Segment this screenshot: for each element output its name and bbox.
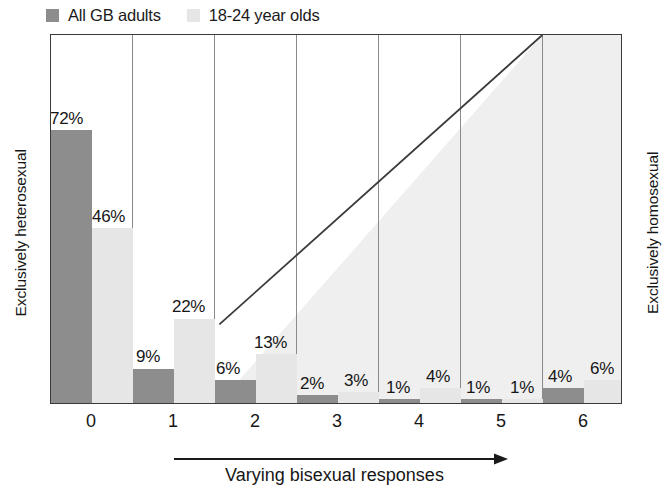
- bar-label-young-3: 3%: [344, 372, 368, 389]
- bar-label-adults-0: 72%: [50, 110, 83, 127]
- bar-label-young-1: 22%: [172, 298, 205, 315]
- bar-label-adults-3: 2%: [300, 375, 324, 392]
- x-tick-6: 6: [563, 412, 603, 430]
- x-tick-5: 5: [481, 412, 521, 430]
- x-tick-2: 2: [235, 412, 275, 430]
- chart-figure: All GB adults 18-24 year olds: [0, 0, 669, 493]
- bar-label-adults-5: 1%: [466, 379, 490, 396]
- right-axis-label: Exclusively homosexual: [645, 133, 661, 333]
- chart-legend: All GB adults 18-24 year olds: [46, 2, 320, 28]
- x-tick-4: 4: [399, 412, 439, 430]
- bar-label-adults-2: 6%: [216, 360, 240, 377]
- legend-label-all-gb-adults: All GB adults: [68, 7, 161, 24]
- legend-swatch-all-gb-adults: [46, 9, 59, 22]
- bar-label-young-0: 46%: [92, 208, 125, 225]
- bar-label-adults-1: 9%: [136, 348, 160, 365]
- legend-entry-18-24-year-olds: 18-24 year olds: [187, 7, 320, 24]
- bar-label-young-5: 1%: [510, 379, 534, 396]
- bar-label-adults-6: 4%: [548, 368, 572, 385]
- legend-swatch-18-24-year-olds: [187, 9, 200, 22]
- legend-label-18-24-year-olds: 18-24 year olds: [209, 7, 320, 24]
- x-tick-1: 1: [153, 412, 193, 430]
- x-tick-3: 3: [317, 412, 357, 430]
- left-axis-label: Exclusively heterosexual: [13, 133, 29, 333]
- bar-label-young-4: 4%: [426, 368, 450, 385]
- legend-entry-all-gb-adults: All GB adults: [46, 7, 161, 24]
- bar-label-adults-4: 1%: [386, 379, 410, 396]
- x-tick-0: 0: [71, 412, 111, 430]
- x-axis-caption: Varying bisexual responses: [0, 466, 669, 484]
- bar-label-young-2: 13%: [254, 334, 287, 351]
- bar-label-young-6: 6%: [590, 360, 614, 377]
